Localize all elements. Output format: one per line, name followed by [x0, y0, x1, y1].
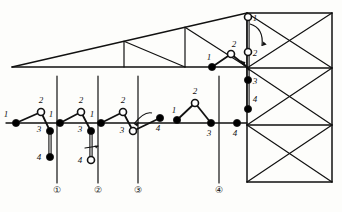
hoist-node-label-3: 3: [252, 76, 258, 86]
truss-joint-label-2: 2: [232, 39, 237, 49]
stage-marker-4: ④: [215, 185, 223, 195]
truss-top-chord: [12, 13, 247, 67]
hoist-node-label-1: 1: [253, 13, 258, 23]
group-stage-1-node-4: [46, 153, 53, 160]
stage-marker-2: ②: [94, 185, 102, 195]
group-stage-1-node-label-1: 1: [4, 109, 9, 119]
group-stage-4-node-2: [192, 100, 199, 107]
truss-joint-node-1: [208, 63, 215, 70]
group-stage-3-node-4: [156, 114, 163, 121]
hoist-node-label-2: 2: [253, 48, 258, 58]
group-stage-4-node-label-2: 2: [193, 86, 198, 96]
truss-erection-diagram: 1234123412341234121234①②③④: [0, 0, 342, 212]
group-stage-1-node-label-2: 2: [39, 95, 44, 105]
group-stage-2-node-label-3: 3: [77, 124, 83, 134]
diagram-canvas: 1234123412341234121234①②③④: [0, 0, 342, 212]
group-stage-3-node-3: [130, 128, 137, 135]
group-stage-2-node-label-2: 2: [79, 95, 84, 105]
hoist-node-3: [244, 76, 251, 83]
group-stage-2-node-label-4: 4: [78, 155, 83, 165]
group-stage-3-node-label-4: 4: [156, 123, 161, 133]
truss-joint-label-1: 1: [207, 52, 212, 62]
group-stage-3-node-label-2: 2: [121, 95, 126, 105]
group-stage-1-node-label-4: 4: [37, 152, 42, 162]
group-stage-2-node-2: [78, 109, 85, 116]
stage-marker-3: ③: [134, 185, 142, 195]
truss-diagonal-1: [124, 41, 185, 67]
truss-joint-node-2: [228, 51, 235, 58]
group-stage-1-node-2: [38, 109, 45, 116]
group-stage-3-node-2: [120, 109, 127, 116]
hoist-node-4: [244, 105, 251, 112]
group-stage-3-node-label-3: 3: [119, 125, 125, 135]
group-stage-1-node-1: [12, 119, 19, 126]
group-stage-4-node-4: [233, 119, 240, 126]
group-stage-4-node-label-3: 3: [206, 128, 212, 138]
group-stage-2-node-3: [87, 127, 94, 134]
group-stage-2-node-4: [88, 157, 95, 164]
stage-marker-1: ①: [53, 185, 61, 195]
hoist-node-label-4: 4: [253, 94, 258, 104]
group-stage-4-node-label-4: 4: [233, 128, 238, 138]
hoist-swing-arc: [250, 24, 262, 46]
group-stage-3-node-1: [97, 119, 104, 126]
truss-diagonal-2: [185, 27, 247, 67]
group-stage-4-node-label-1: 1: [172, 105, 177, 115]
group-stage-1-node-3: [46, 127, 53, 134]
group-stage-2-node-1: [56, 119, 63, 126]
hoist-node-1: [245, 14, 252, 21]
hoist-node-2: [245, 49, 252, 56]
group-stage-4-node-3: [207, 119, 214, 126]
group-stage-3-node-label-1: 1: [90, 109, 95, 119]
group-stage-4-node-1: [173, 116, 180, 123]
group-stage-2-node-label-1: 1: [49, 109, 54, 119]
group-stage-1-node-label-3: 3: [36, 124, 42, 134]
